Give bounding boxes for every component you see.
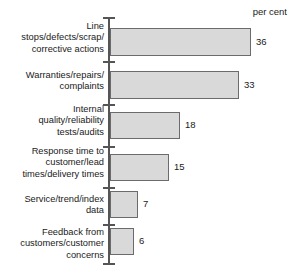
bar-value-label: 7 [143, 198, 148, 209]
bar-value-label: 36 [256, 36, 267, 47]
bar [110, 191, 138, 218]
axis-tick [103, 104, 115, 106]
category-label: Service/trend/index data [0, 194, 104, 217]
bar [110, 112, 180, 139]
axis-tick [103, 17, 115, 19]
category-label: Response time to customer/lead times/del… [0, 146, 104, 180]
bar-value-label: 6 [139, 235, 144, 246]
axis-tick [103, 224, 115, 226]
axis-tick [103, 263, 115, 265]
axis-tick [103, 146, 115, 148]
category-label: Warranties/repairs/ complaints [0, 70, 104, 93]
axis-tick [103, 187, 115, 189]
category-label: Line stops/defects/scrap/ corrective act… [0, 21, 104, 55]
bar-value-label: 18 [185, 119, 196, 130]
bar-value-label: 15 [174, 161, 185, 172]
axis-tick [103, 61, 115, 63]
bar [110, 71, 239, 99]
unit-label: per cent [253, 6, 287, 17]
bar-chart: per cent Line stops/defects/scrap/ corre… [0, 0, 293, 278]
category-label: Feedback from customers/customer concern… [0, 227, 104, 261]
bar [110, 28, 251, 56]
category-label: Internal quality/reliability tests/audit… [0, 104, 104, 138]
bar-value-label: 33 [244, 79, 255, 90]
bar [110, 154, 169, 181]
bar [110, 228, 134, 255]
